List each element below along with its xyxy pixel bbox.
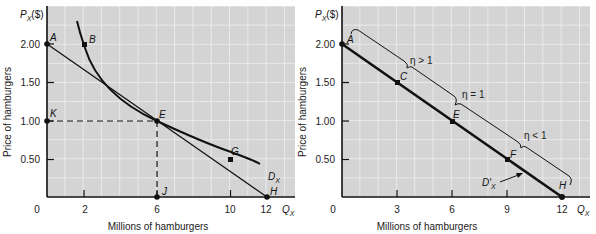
xtick-label: 6 [449, 204, 455, 215]
point-j [154, 194, 160, 200]
label-a: A [49, 32, 57, 43]
xtick-label: 2 [82, 204, 88, 215]
right-plot-area [342, 6, 590, 197]
x-axis-title: QX [577, 204, 590, 217]
point-h [559, 194, 565, 200]
eta-greater-label: η > 1 [410, 55, 433, 66]
label-c: C [400, 71, 408, 82]
xtick-label: 10 [224, 204, 236, 215]
label-h: H [270, 186, 278, 197]
x-axis-label: Millions of hamburgers [108, 221, 209, 232]
xtick-label: 12 [556, 204, 568, 215]
ytick-label: 1.00 [21, 116, 41, 127]
label-j: J [161, 186, 168, 197]
point-h [264, 194, 270, 200]
left-plot-area [47, 6, 295, 197]
xtick-label: 6 [154, 204, 160, 215]
xtick-label: 9 [504, 204, 510, 215]
y-axis-title: PX($) [315, 9, 339, 22]
point-b [82, 42, 87, 47]
x-axis-label: Millions of hamburgers [377, 221, 478, 232]
label-e: E [453, 109, 460, 120]
ytick-label: 2.00 [316, 39, 336, 50]
label-g: G [231, 146, 239, 157]
eta-less-label: η < 1 [524, 130, 547, 141]
origin-label: 0 [34, 204, 40, 215]
y-axis-label: Price of hamburgers [2, 67, 13, 157]
ytick-label: 0.50 [21, 154, 41, 165]
figure: A B K E G J H DX 2.00 1.50 1.00 0.50 0 2… [0, 0, 596, 234]
label-b: B [89, 34, 96, 45]
point-k [44, 118, 50, 124]
label-a: A [346, 34, 354, 45]
xtick-label: 12 [260, 204, 272, 215]
y-axis-title: PX($) [20, 9, 44, 22]
right-chart: A C E F H η > 1 η = 1 η < 1 D′X 2.00 1.5… [297, 6, 590, 232]
y-axis-label: Price of hamburgers [297, 67, 308, 157]
xtick-label: 3 [394, 204, 400, 215]
left-chart: A B K E G J H DX 2.00 1.50 1.00 0.50 0 2… [2, 6, 295, 232]
point-g [228, 157, 233, 162]
ytick-label: 1.00 [316, 116, 336, 127]
ytick-label: 1.50 [316, 77, 336, 88]
label-h: H [559, 180, 567, 191]
origin-label: 0 [330, 204, 336, 215]
label-f: F [510, 149, 517, 160]
label-e: E [159, 109, 166, 120]
ytick-label: 0.50 [316, 154, 336, 165]
ytick-label: 2.00 [21, 39, 41, 50]
x-axis-title: QX [282, 204, 295, 217]
eta-equal-label: η = 1 [462, 89, 485, 100]
point-a [44, 41, 50, 47]
ytick-label: 1.50 [21, 77, 41, 88]
point-a [339, 41, 345, 47]
